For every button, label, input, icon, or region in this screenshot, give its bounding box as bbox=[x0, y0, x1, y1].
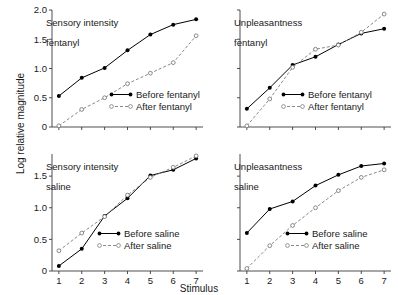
legend-item-before: Before saline bbox=[284, 228, 367, 240]
data-point-after bbox=[126, 82, 130, 86]
panel-title-line1: Unpleasantness bbox=[234, 17, 302, 28]
y-axis-title: Log relative magnitude bbox=[15, 49, 26, 199]
data-point-before bbox=[268, 207, 272, 211]
legend-item-before: Before fentanyl bbox=[108, 89, 200, 101]
panel-title-line2: fentanyl bbox=[234, 37, 267, 48]
data-point-after bbox=[382, 168, 386, 172]
x-tick-label: 4 bbox=[125, 275, 130, 286]
data-point-after bbox=[148, 71, 152, 75]
legend-key-dashed-icon bbox=[284, 240, 310, 251]
data-point-after bbox=[359, 176, 363, 180]
x-tick-label: 4 bbox=[313, 275, 318, 286]
panel-unpleasantness-fentanyl: Unpleasantness fentanyl Before fentanyl … bbox=[218, 6, 393, 134]
x-tick-label: 2 bbox=[79, 275, 84, 286]
panel-sensory-intensity-saline: 00.51.01.51234567 Sensory intensity sali… bbox=[30, 150, 205, 278]
x-tick-label: 5 bbox=[148, 275, 153, 286]
data-point-after bbox=[171, 165, 175, 169]
data-point-before bbox=[148, 33, 152, 37]
data-point-after bbox=[268, 97, 272, 101]
data-point-before bbox=[245, 231, 249, 235]
data-point-after bbox=[359, 30, 363, 34]
legend: Before saline After saline bbox=[96, 228, 179, 251]
data-point-before bbox=[268, 86, 272, 90]
legend-label-before: Before fentanyl bbox=[136, 89, 200, 101]
data-point-after bbox=[80, 231, 84, 235]
legend-item-after: After fentanyl bbox=[108, 101, 200, 113]
data-point-before bbox=[314, 55, 318, 59]
data-point-before bbox=[57, 94, 61, 98]
data-point-before bbox=[194, 17, 198, 21]
data-point-before bbox=[314, 184, 318, 188]
legend-key-dashed-icon bbox=[280, 101, 306, 112]
data-point-after bbox=[103, 96, 107, 100]
legend-label-before: Before saline bbox=[124, 228, 179, 240]
y-tick-label: 0 bbox=[42, 121, 47, 132]
data-point-after bbox=[268, 244, 272, 248]
data-point-after bbox=[194, 154, 198, 158]
y-tick-label: 0 bbox=[42, 265, 47, 276]
data-point-after bbox=[194, 34, 198, 38]
data-point-after bbox=[57, 249, 61, 253]
data-point-before bbox=[126, 48, 130, 52]
data-point-before bbox=[382, 27, 386, 31]
data-point-before bbox=[57, 264, 61, 268]
legend-item-before: Before fentanyl bbox=[280, 89, 372, 101]
panel-unpleasantness-saline: 1234567 Unpleasantness saline Before sal… bbox=[218, 150, 393, 278]
legend: Before fentanyl After fentanyl bbox=[280, 89, 372, 112]
panel-title: Sensory intensity fentanyl bbox=[46, 8, 118, 48]
legend-item-after: After saline bbox=[96, 240, 179, 252]
y-tick-label: 1.0 bbox=[34, 63, 47, 74]
panel-title-line2: saline bbox=[46, 181, 71, 192]
legend-key-solid-icon bbox=[96, 228, 122, 239]
data-point-before bbox=[80, 76, 84, 80]
panel-title-line2: fentanyl bbox=[46, 37, 79, 48]
x-tick-label: 7 bbox=[193, 275, 198, 286]
panel-title: Sensory intensity saline bbox=[46, 152, 118, 192]
data-point-after bbox=[382, 12, 386, 16]
legend-label-after: After saline bbox=[312, 240, 360, 252]
legend-item-before: Before saline bbox=[96, 228, 179, 240]
data-point-before bbox=[245, 107, 249, 111]
legend: Before fentanyl After fentanyl bbox=[108, 89, 200, 112]
y-tick-label: 0.5 bbox=[34, 92, 47, 103]
legend-item-after: After saline bbox=[284, 240, 367, 252]
x-tick-label: 3 bbox=[102, 275, 107, 286]
data-point-after bbox=[148, 176, 152, 180]
x-tick-label: 1 bbox=[56, 275, 61, 286]
data-point-after bbox=[171, 61, 175, 65]
data-point-after bbox=[245, 267, 249, 271]
data-point-after bbox=[57, 124, 61, 128]
x-tick-label: 6 bbox=[171, 275, 176, 286]
legend-key-solid-icon bbox=[280, 89, 306, 100]
legend-key-dashed-icon bbox=[96, 240, 122, 251]
data-point-after bbox=[103, 215, 107, 219]
data-point-after bbox=[314, 206, 318, 210]
data-point-before bbox=[80, 247, 84, 251]
panel-sensory-intensity-fentanyl: 00.51.01.52.0 Sensory intensity fentanyl… bbox=[30, 6, 205, 134]
data-point-before bbox=[336, 173, 340, 177]
panel-title-line1: Sensory intensity bbox=[46, 17, 118, 28]
legend-label-after: After fentanyl bbox=[136, 101, 192, 113]
data-point-before bbox=[103, 66, 107, 70]
legend: Before saline After saline bbox=[284, 228, 367, 251]
data-point-after bbox=[126, 193, 130, 197]
panel-title-line1: Sensory intensity bbox=[46, 161, 118, 172]
data-point-after bbox=[80, 108, 84, 112]
data-point-after bbox=[314, 47, 318, 51]
figure-root: Log relative magnitude Stimulus 00.51.01… bbox=[0, 0, 398, 295]
legend-key-solid-icon bbox=[108, 89, 134, 100]
legend-item-after: After fentanyl bbox=[280, 101, 372, 113]
x-tick-label: 7 bbox=[381, 275, 386, 286]
data-point-before bbox=[359, 164, 363, 168]
x-tick-label: 6 bbox=[359, 275, 364, 286]
data-point-before bbox=[382, 161, 386, 165]
data-point-after bbox=[291, 65, 295, 69]
x-tick-label: 1 bbox=[244, 275, 249, 286]
legend-key-solid-icon bbox=[284, 228, 310, 239]
legend-label-before: Before fentanyl bbox=[308, 89, 372, 101]
x-tick-label: 5 bbox=[336, 275, 341, 286]
legend-label-before: Before saline bbox=[312, 228, 367, 240]
data-point-before bbox=[171, 23, 175, 27]
x-tick-label: 2 bbox=[267, 275, 272, 286]
x-tick-label: 3 bbox=[290, 275, 295, 286]
